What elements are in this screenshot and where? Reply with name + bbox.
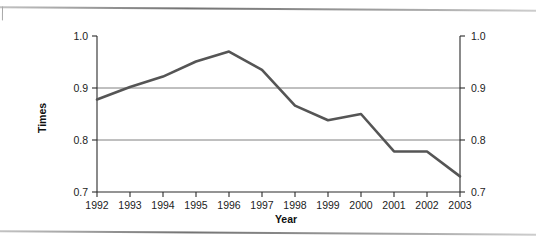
y-left-label-0.9: 0.9 [73, 82, 88, 94]
data-series-times [97, 52, 460, 177]
x-tick-label-1999: 1999 [316, 199, 340, 211]
y-left-label-0.7: 0.7 [73, 186, 88, 198]
x-tick-label-2003: 2003 [448, 199, 472, 211]
x-ticks [97, 192, 460, 197]
x-tick-label-1993: 1993 [118, 199, 142, 211]
y-right-label-0.8: 0.8 [471, 134, 486, 146]
x-axis-title: Year [275, 213, 297, 225]
x-tick-label-1992: 1992 [85, 199, 109, 211]
gridlines [97, 88, 460, 140]
x-tick-label-1994: 1994 [151, 199, 175, 211]
page-rule-bottom [0, 230, 536, 235]
y-axis-left [92, 36, 97, 192]
y-axis-right [460, 36, 465, 192]
x-tick-labels: 1992199319941995199619971998199920002001… [85, 199, 472, 211]
y-right-label-1.0: 1.0 [471, 30, 486, 42]
y-left-label-1.0: 1.0 [73, 30, 88, 42]
y-left-label-0.8: 0.8 [73, 134, 88, 146]
y-right-label-0.7: 0.7 [471, 186, 486, 198]
x-tick-label-1997: 1997 [250, 199, 274, 211]
chart-svg: 1.0 0.9 0.8 0.7 1.0 0.9 0.8 0.7 19921993… [0, 14, 536, 228]
x-tick-label-1998: 1998 [283, 199, 307, 211]
y-axis-title: Times [36, 103, 48, 133]
x-tick-label-1996: 1996 [217, 199, 241, 211]
line-chart: 1.0 0.9 0.8 0.7 1.0 0.9 0.8 0.7 19921993… [0, 14, 536, 228]
x-tick-label-2000: 2000 [349, 199, 373, 211]
y-right-label-0.9: 0.9 [471, 82, 486, 94]
page-rule-top [0, 6, 536, 11]
x-tick-label-2001: 2001 [382, 199, 406, 211]
x-tick-label-2002: 2002 [415, 199, 439, 211]
x-tick-label-1995: 1995 [184, 199, 208, 211]
